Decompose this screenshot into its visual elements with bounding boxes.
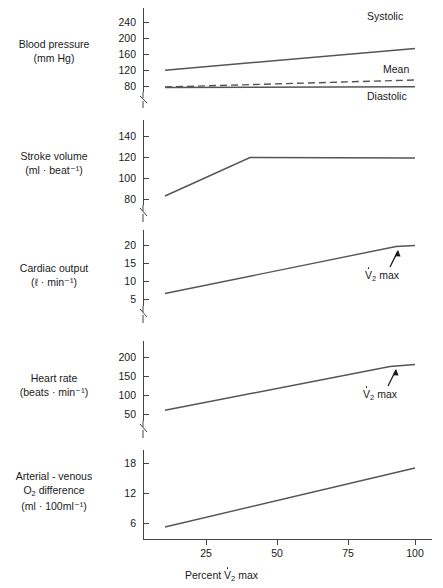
- x-axis-title: Percent V2 max: [0, 569, 443, 583]
- cardiovascular-response-figure: Blood pressure (mm Hg) 240 200 160 120 8…: [0, 0, 443, 588]
- x-tick-label: 100: [406, 547, 424, 559]
- annotation-vo2max: V2 max: [365, 269, 399, 283]
- vo2max-arrow-icon: [390, 250, 401, 267]
- v-dot-icon: V: [224, 569, 231, 581]
- annotation-suffix: max: [374, 388, 397, 400]
- v-dot-icon: V: [363, 388, 370, 400]
- plot-area-stroke-volume: [0, 112, 443, 222]
- series-label-mean: Mean: [383, 63, 409, 75]
- plot-area-heart-rate: [0, 332, 443, 442]
- panel-a-v-o2-difference: Arterial - venous O2 difference (ml · 10…: [0, 442, 443, 588]
- line-a-v-o2-difference: [165, 468, 415, 527]
- x-tick-label: 50: [271, 547, 283, 559]
- line-stroke-volume: [165, 158, 415, 197]
- annotation-vo2max: V2 max: [363, 388, 397, 402]
- annotation-suffix: max: [376, 269, 399, 281]
- line-diastolic: [165, 87, 415, 88]
- line-mean: [165, 80, 415, 87]
- vo2max-arrow-icon: [388, 369, 399, 386]
- series-label-diastolic: Diastolic: [367, 90, 407, 102]
- x-axis-title-suffix: max: [235, 569, 258, 581]
- x-tick-label: 75: [342, 547, 354, 559]
- x-tick-label: 25: [200, 547, 212, 559]
- panel-stroke-volume: Stroke volume (ml · beat⁻¹) 140 120 100 …: [0, 112, 443, 222]
- x-axis-title-prefix: Percent: [185, 569, 224, 581]
- panel-heart-rate: Heart rate (beats · min⁻¹) 200 150 100 5…: [0, 332, 443, 442]
- series-label-systolic: Systolic: [367, 10, 403, 22]
- line-systolic: [165, 49, 415, 71]
- plot-area-a-v-o2-difference: [0, 442, 443, 588]
- panel-blood-pressure: Blood pressure (mm Hg) 240 200 160 120 8…: [0, 0, 443, 112]
- v-dot-icon: V: [365, 269, 372, 281]
- panel-cardiac-output: Cardiac output (ℓ · min⁻¹) 20 15 10 5: [0, 222, 443, 332]
